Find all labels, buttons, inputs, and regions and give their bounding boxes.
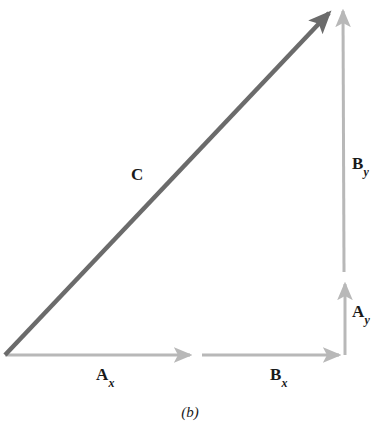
figure-caption: (b)	[0, 404, 380, 421]
vector-label-c: C	[131, 166, 143, 183]
vector-addition-figure: C Ax Bx Ay By (b)	[0, 0, 380, 433]
vector-arrow-by	[343, 11, 344, 272]
vector-label-ay-subscript: y	[364, 313, 370, 327]
vector-label-bx: Bx	[270, 366, 288, 386]
vector-label-c-symbol: C	[131, 165, 143, 184]
vector-label-by: By	[352, 155, 369, 175]
vector-label-bx-symbol: B	[270, 365, 282, 384]
vector-label-by-symbol: B	[352, 154, 364, 173]
vector-label-ax: Ax	[96, 366, 115, 386]
vector-label-ay: Ay	[352, 303, 370, 323]
vector-arrow-c	[5, 13, 329, 355]
vector-label-ay-symbol: A	[352, 302, 364, 321]
vector-label-ax-symbol: A	[96, 365, 108, 384]
vector-label-by-subscript: y	[364, 165, 370, 179]
vector-diagram-canvas	[0, 0, 380, 433]
vector-label-bx-subscript: x	[282, 376, 288, 390]
vector-label-ax-subscript: x	[108, 376, 114, 390]
